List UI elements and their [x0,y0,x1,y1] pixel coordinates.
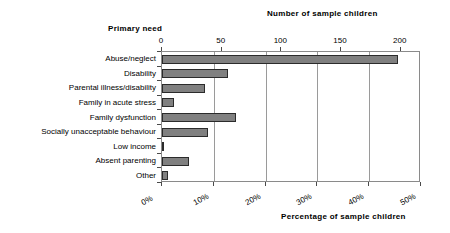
bar [162,55,398,64]
top-axis-tick-label: 50 [216,36,225,45]
category-label: Other [0,170,156,179]
bottom-axis-tick-label: 30% [295,192,313,207]
category-label: Family dysfunction [0,112,156,121]
category-axis-title: Primary need [108,24,162,33]
plot-area [161,51,420,182]
category-label: Family in acute stress [0,97,156,106]
bar [162,128,208,137]
bottom-axis-tick-label: 0% [140,194,154,207]
top-axis-tick-label: 200 [393,36,406,45]
bottom-axis-tick [316,182,317,186]
bottom-axis-tick-label: 10% [192,192,210,207]
category-label: Absent parenting [0,156,156,165]
bottom-axis-tick [368,182,369,186]
bar [162,157,189,166]
bottom-axis-tick [161,182,162,186]
top-axis-tick-label: 100 [274,36,287,45]
bottom-axis-title: Percentage of sample children [281,212,406,221]
bottom-axis-tick [265,182,266,186]
bottom-axis-tick [213,182,214,186]
gridline [317,52,318,181]
bottom-axis-tick-label: 20% [243,192,261,207]
bottom-axis-tick-label: 40% [347,192,365,207]
bar-chart: Number of sample children Primary need P… [0,0,450,233]
gridline [369,52,370,181]
bar [162,69,228,78]
bar [162,171,168,180]
bottom-axis-tick [420,182,421,186]
category-label: Socially unacceptable behaviour [0,127,156,136]
bar [162,142,164,151]
bottom-axis-tick-label: 50% [399,192,417,207]
gridline [266,52,267,181]
category-label: Abuse/neglect [0,54,156,63]
top-axis-tick-label: 0 [159,36,163,45]
top-axis-title: Number of sample children [267,9,378,18]
category-label: Parental illness/disability [0,83,156,92]
bar [162,84,205,93]
category-label: Disability [0,68,156,77]
top-axis-tick-label: 150 [333,36,346,45]
bar [162,113,236,122]
bar [162,98,174,107]
category-label: Low income [0,141,156,150]
category-tick [157,182,161,183]
